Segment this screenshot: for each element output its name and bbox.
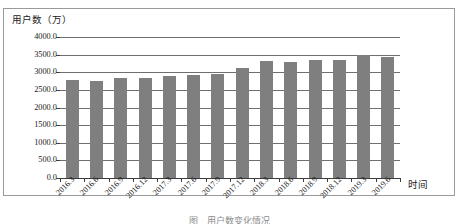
y-tick-label: 1500.0 [11,121,57,129]
x-tick-label: 2016.12 [124,175,149,200]
gridline-1500 [60,125,400,126]
gridline-3000 [60,72,400,73]
x-axis-tick-labels: 2016.32016.62016.92016.122017.32017.6201… [0,175,459,215]
x-tick-label: 2016.9 [103,175,125,197]
y-tick-label: 3500.0 [11,51,57,59]
bar [139,78,152,178]
chart-plot-area [60,37,400,178]
x-tick-label: 2016.3 [54,175,76,197]
y-tickmark [56,72,60,73]
y-tick-label: 2000.0 [11,104,57,112]
y-tickmark [56,37,60,38]
x-tick-label: 2019.6 [370,175,392,197]
bar [66,80,79,178]
gridline-500 [60,160,400,161]
y-tick-label: 500.0 [11,156,57,164]
figure-caption: 图 用户数变化情况 [0,214,459,224]
y-tickmark [56,160,60,161]
y-tick-label: 2500.0 [11,86,57,94]
bar [333,60,346,178]
bar [187,75,200,178]
bar [260,61,273,178]
bar [381,57,394,178]
x-tick-label: 2017.9 [200,175,222,197]
x-tick-label: 2018.6 [273,175,295,197]
y-tickmark [56,90,60,91]
y-tickmark [56,108,60,109]
x-tick-label: 2018.3 [249,175,271,197]
y-tickmark [56,143,60,144]
x-tick-label: 2017.3 [151,175,173,197]
bar [309,60,322,178]
bar [114,78,127,178]
x-tick-label: 2018.9 [297,175,319,197]
gridline-2500 [60,90,400,91]
x-tick-label: 2017.12 [221,175,246,200]
x-tick-label: 2019.3 [346,175,368,197]
y-tickmark [56,125,60,126]
gridline-2000 [60,108,400,109]
x-tick-label: 2018.12 [318,175,343,200]
bar [236,68,249,178]
bar [163,76,176,178]
gridline-1000 [60,143,400,144]
y-tick-label: 4000.0 [11,33,57,41]
bar [90,81,103,178]
y-tickmark [56,55,60,56]
x-tick-label: 2016.6 [79,175,101,197]
bar [211,74,224,178]
y-tick-label: 3000.0 [11,68,57,76]
bar [357,55,370,178]
x-tick-label: 2017.6 [176,175,198,197]
gridline-3500 [60,55,400,56]
chart-plot-frame: 用户数（万） 4000.03500.03000.02500.02000.0150… [3,8,455,196]
gridline-4000 [60,37,400,38]
y-axis-title: 用户数（万） [12,12,72,26]
y-tick-label: 1000.0 [11,139,57,147]
bar [284,62,297,178]
y-axis-tick-labels: 4000.03500.03000.02500.02000.01500.01000… [7,37,57,178]
